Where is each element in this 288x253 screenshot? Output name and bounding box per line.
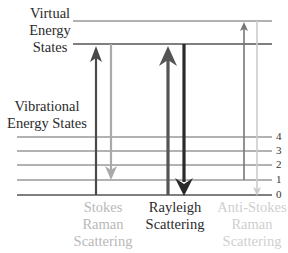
anti-stokes-raman-label: Anti-Stokes Raman Scattering <box>214 199 288 250</box>
raman-energy-diagram: Virtual Energy States Vibrational Energy… <box>0 0 288 253</box>
stokes-emission-arrow <box>105 44 117 180</box>
level-number-3: 3 <box>276 145 282 156</box>
virtual-label-line-1: Virtual <box>18 5 82 22</box>
level-number-4: 4 <box>276 131 282 142</box>
vibrational-label-line-2: Energy States <box>3 115 91 132</box>
level-number-1: 1 <box>276 174 282 185</box>
virtual-label-line-3: States <box>18 39 82 56</box>
rayleigh-label: Rayleigh Scattering <box>142 199 208 233</box>
vibrational-states-label: Vibrational Energy States <box>3 98 91 132</box>
vibrational-label-line-1: Vibrational <box>3 98 91 115</box>
anti-stokes-label-line-3: Scattering <box>214 233 288 250</box>
anti-stokes-label-line-2: Raman <box>214 216 288 233</box>
rayleigh-emission-arrow <box>175 44 193 196</box>
level-number-2: 2 <box>276 159 282 170</box>
rayleigh-label-line-1: Rayleigh <box>142 199 208 216</box>
stokes-raman-label: Stokes Raman Scattering <box>68 199 138 250</box>
virtual-states-label: Virtual Energy States <box>18 5 82 56</box>
rayleigh-label-line-2: Scattering <box>142 216 208 233</box>
rayleigh-excitation-arrow <box>159 46 177 195</box>
stokes-label-line-2: Raman <box>68 216 138 233</box>
anti-stokes-emission-arrow <box>253 21 261 196</box>
virtual-label-line-2: Energy <box>18 22 82 39</box>
anti-stokes-excitation-arrow <box>240 22 248 180</box>
anti-stokes-label-line-1: Anti-Stokes <box>214 199 288 216</box>
stokes-excitation-arrow <box>90 46 102 195</box>
stokes-label-line-1: Stokes <box>68 199 138 216</box>
stokes-label-line-3: Scattering <box>68 233 138 250</box>
